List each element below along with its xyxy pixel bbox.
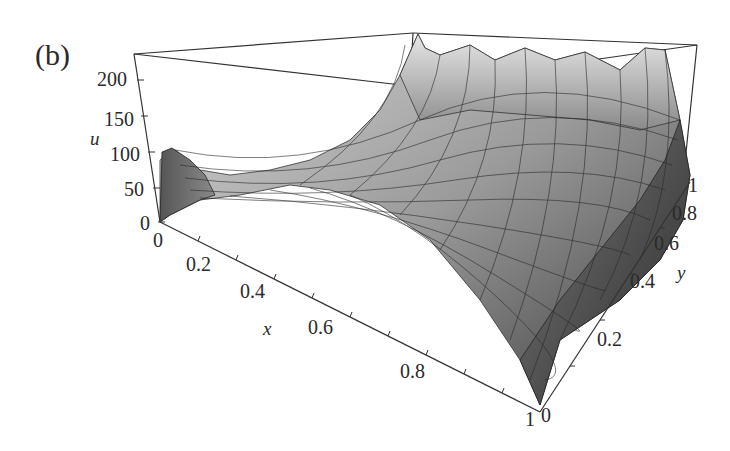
z-tick-100: 100 xyxy=(110,143,140,166)
x-tick-0.4: 0.4 xyxy=(240,280,265,303)
x-axis-label: x xyxy=(263,318,271,340)
x-tick-0.2: 0.2 xyxy=(186,253,211,276)
x-tick-0.6: 0.6 xyxy=(308,316,333,339)
z-tick-50: 50 xyxy=(124,178,144,201)
z-axis-label: u xyxy=(90,128,100,150)
y-tick-0: 0 xyxy=(541,404,551,427)
y-tick-0.2: 0.2 xyxy=(597,328,622,351)
y-tick-0.4: 0.4 xyxy=(630,270,655,293)
z-tick-200: 200 xyxy=(97,68,127,91)
x-tick-0.8: 0.8 xyxy=(400,360,425,383)
z-tick-150: 150 xyxy=(104,108,134,131)
y-tick-0.6: 0.6 xyxy=(654,232,679,255)
y-axis-label: y xyxy=(677,262,685,284)
z-tick-0: 0 xyxy=(140,212,150,235)
y-tick-0.8: 0.8 xyxy=(672,202,697,225)
x-tick-1: 1 xyxy=(525,408,535,431)
panel-label: (b) xyxy=(35,38,70,72)
x-tick-0: 0 xyxy=(153,229,163,252)
y-tick-1: 1 xyxy=(688,174,698,197)
